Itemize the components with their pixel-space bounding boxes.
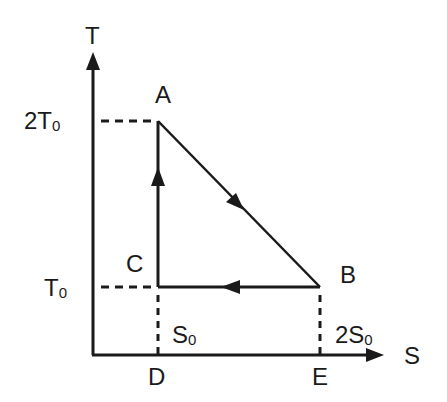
- arrow-left-icon: [221, 280, 240, 294]
- point-e-label: E: [312, 363, 328, 390]
- diagram-svg: T S 2T0 T0 S0 2S0 A B C D E: [0, 0, 447, 402]
- tick-2s0: 2S0: [335, 321, 373, 348]
- arrow-up-icon: [151, 167, 165, 186]
- point-c-label: C: [126, 250, 143, 277]
- point-b-label: B: [340, 261, 356, 288]
- tick-2t0: 2T0: [24, 107, 60, 134]
- y-axis-label: T: [85, 22, 100, 49]
- point-d-label: D: [148, 363, 165, 390]
- point-a-label: A: [155, 81, 171, 108]
- tick-t0: T0: [44, 274, 67, 301]
- ts-diagram: T S 2T0 T0 S0 2S0 A B C D E: [0, 0, 447, 402]
- s-axis-arrowhead-icon: [366, 348, 384, 362]
- t-axis-arrowhead-icon: [86, 52, 100, 70]
- tick-s0: S0: [172, 321, 196, 348]
- arrow-diagonal-icon: [226, 193, 244, 210]
- x-axis-label: S: [404, 342, 420, 369]
